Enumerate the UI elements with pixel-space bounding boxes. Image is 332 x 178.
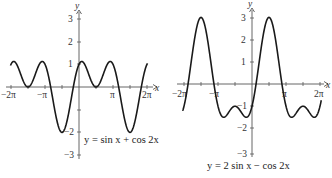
left-y-tick-label: 1 [68,59,73,69]
figure: x y −2π −π π 2π 3 2 1 −2 −3 y = sin x + … [0,0,332,178]
left-x-axis-label: x [154,83,160,93]
left-y-axis-label: y [74,1,80,11]
left-equation-label: y = sin x + cos 2x [84,134,160,145]
left-x-tick-label: −2π [1,90,16,100]
right-x-tick-label: −2π [172,89,187,99]
right-equation-label: y = 2 sin x − cos 2x [207,160,290,171]
right-x-axis-label: x [325,80,331,90]
right-y-tick-label: −3 [237,149,247,159]
right-y-tick-label: 3 [241,13,246,23]
left-x-tick-label: 2π [142,90,152,100]
right-y-tick-label: 1 [241,57,246,67]
right-y-tick-label: −2 [237,123,247,133]
right-chart: x y −2π −π π 2π 3 2 1 −1 −2 −3 y = 2 sin… [172,0,331,171]
right-y-tick-label: 2 [241,35,246,45]
left-y-tick-label: 2 [68,37,73,47]
right-y-axis-label: y [247,0,253,9]
right-x-tick-label: 2π [314,89,324,99]
left-x-tick-label: π [110,90,115,100]
left-y-tick-label: 3 [68,14,73,24]
left-y-tick-label: −3 [64,150,74,160]
left-x-tick-label: −π [37,90,47,100]
left-chart: x y −2π −π π 2π 3 2 1 −2 −3 y = sin x + … [1,1,160,160]
